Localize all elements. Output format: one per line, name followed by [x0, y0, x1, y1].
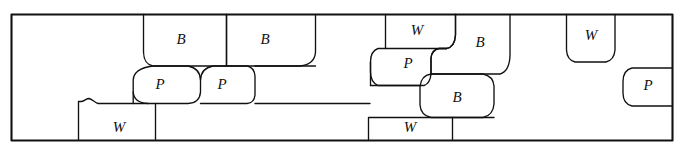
outer-frame: [12, 15, 673, 141]
cell-label-p4: P: [642, 77, 652, 93]
cell-label-w1: W: [113, 119, 127, 135]
diagram-canvas: B B P P W W P B B W W P: [0, 0, 682, 152]
cell-label-b2: B: [260, 31, 269, 47]
cell-label-b4: B: [452, 89, 461, 105]
cell-label-p3: P: [402, 55, 412, 71]
cell-label-b3: B: [475, 34, 484, 50]
floor-plan-svg: B B P P W W P B B W W P: [0, 0, 682, 152]
cell-label-w3: W: [404, 119, 418, 135]
cell-b2-outline: [227, 15, 316, 67]
cell-label-p1: P: [154, 76, 164, 92]
cell-label-p2: P: [216, 76, 226, 92]
cell-b3-outline: [431, 15, 510, 75]
cell-p1-outline: [133, 66, 200, 104]
cell-label-w2: W: [411, 22, 425, 38]
cell-label-b1: B: [176, 31, 185, 47]
cell-p2-outline: [201, 66, 256, 104]
cell-label-w4: W: [585, 27, 599, 43]
